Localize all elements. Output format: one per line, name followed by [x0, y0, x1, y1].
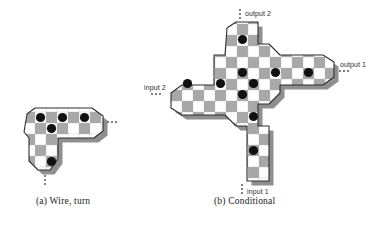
disc — [58, 113, 67, 122]
disc — [36, 113, 45, 122]
disc — [47, 157, 56, 166]
disc — [249, 112, 258, 121]
port-label-output-1: output 1 — [340, 61, 366, 68]
disc — [238, 68, 247, 77]
disc — [183, 79, 192, 88]
disc — [249, 146, 258, 155]
panel-a-wire-turn — [14, 102, 117, 185]
caption-panel-a: (a) Wire, turn — [36, 196, 90, 206]
output-2-ellipsis-icon — [239, 9, 241, 19]
panel-a-right-ellipsis-icon — [107, 121, 117, 123]
disc — [238, 90, 247, 99]
panel-b-conditional — [151, 9, 350, 194]
caption-panel-b: (b) Conditional — [214, 196, 275, 206]
panel-b-cells — [160, 13, 350, 194]
disc — [80, 113, 89, 122]
port-label-input-1: input 1 — [247, 188, 269, 195]
disc — [47, 124, 56, 133]
disc — [238, 35, 247, 44]
panel-a-bottom-ellipsis-icon — [44, 175, 46, 185]
disc — [216, 79, 225, 88]
input-1-ellipsis-icon — [241, 184, 243, 194]
disc — [249, 79, 258, 88]
port-label-output-2: output 2 — [245, 10, 271, 17]
disc — [304, 68, 313, 77]
port-label-input-2: input 2 — [144, 84, 166, 91]
output-1-ellipsis-icon — [339, 70, 349, 72]
input-2-ellipsis-icon — [151, 93, 161, 95]
disc — [271, 68, 280, 77]
